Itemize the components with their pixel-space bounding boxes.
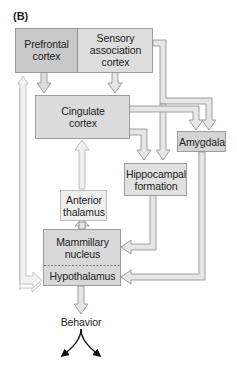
prefrontal-label: Prefrontal cortex (16, 38, 77, 62)
mammillary-label-line1: Mammillary (44, 236, 121, 248)
behavior-arrow-right (81, 329, 100, 356)
hippocampal-label-line2: formation (125, 180, 187, 192)
arrow-anterior-cingulate (75, 140, 89, 189)
anterior-thalamus-label-line2: thalamus (61, 206, 107, 218)
anterior-thalamus-label-line1: Anterior (61, 194, 107, 206)
arrow-hippocampal-mammillary (121, 195, 156, 254)
amygdala-label: Amygdala (178, 136, 226, 148)
hippocampal-label: Hippocampal formation (125, 168, 187, 192)
behavior-arrow-left (62, 329, 81, 356)
arrow-mammillary-anterior-shaft (79, 222, 85, 229)
arrow-cingulate-hippocampal (129, 129, 151, 160)
arrow-prefrontal-cingulate (37, 72, 51, 93)
sensory-label: Sensory association cortex (78, 32, 153, 68)
mammillary-label-line2: nucleus (44, 248, 121, 260)
sensory-label-line2: association (78, 44, 153, 56)
cingulate-label-line2: cortex (36, 117, 130, 129)
sensory-label-line3: cortex (78, 56, 153, 68)
cingulate-label-line1: Cingulate (36, 105, 130, 117)
prefrontal-label-line2: cortex (16, 50, 77, 62)
cingulate-label: Cingulate cortex (36, 105, 130, 129)
mammillary-label: Mammillary nucleus (44, 236, 121, 260)
hippocampal-label-line1: Hippocampal (125, 168, 187, 180)
arrow-hypothalamus-behavior (74, 286, 88, 314)
anterior-thalamus-label: Anterior thalamus (61, 194, 107, 218)
sensory-label-line1: Sensory (78, 32, 153, 44)
prefrontal-label-line1: Prefrontal (16, 38, 77, 50)
behavior-label: Behavior (51, 316, 111, 328)
panel-label: (B) (13, 10, 28, 22)
arrow-sensory-cingulate (108, 72, 122, 93)
hypothalamus-label: Hypothalamus (44, 270, 121, 282)
